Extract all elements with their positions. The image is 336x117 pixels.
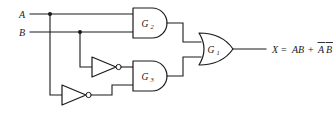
wire-anot-to-g3 bbox=[91, 85, 133, 95]
gate-g1-label: G bbox=[208, 45, 215, 55]
junction-dot-b bbox=[78, 30, 82, 34]
circuit-svg-canvas: A B G 2 G 3 bbox=[0, 0, 336, 117]
output-plus-sign: + bbox=[308, 44, 314, 55]
inverter-a-triangle bbox=[62, 85, 86, 105]
inverter-a-bubble-icon bbox=[86, 92, 91, 97]
output-equals-sign: = bbox=[281, 44, 287, 55]
inverter-b-bubble-icon bbox=[116, 64, 121, 69]
gate-g1-subscript: 1 bbox=[216, 49, 219, 56]
input-label-b: B bbox=[19, 27, 25, 38]
wire-g3-output-to-g1 bbox=[167, 57, 201, 76]
wire-a-branch-to-inverter bbox=[50, 14, 62, 95]
input-label-a: A bbox=[18, 9, 26, 20]
output-var-x: X bbox=[271, 44, 279, 55]
wire-g2-output-to-g1 bbox=[167, 23, 201, 42]
inverter-b-triangle bbox=[92, 57, 116, 77]
output-term-ab: AB bbox=[291, 44, 304, 55]
wire-b-branch-to-inverter bbox=[80, 32, 92, 67]
gate-g3-label: G bbox=[142, 72, 149, 82]
logic-circuit-diagram: A B G 2 G 3 bbox=[0, 0, 336, 117]
output-term-b-complement: B bbox=[326, 44, 332, 55]
junction-dot-a bbox=[48, 12, 52, 16]
gate-g2-label: G bbox=[142, 19, 149, 29]
output-term-a-complement: A bbox=[317, 44, 325, 55]
